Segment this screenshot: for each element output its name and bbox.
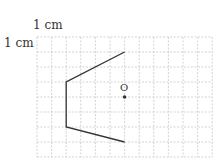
point-o-dot — [123, 95, 127, 99]
grid-diagram — [0, 0, 219, 167]
point-o-label: O — [120, 82, 128, 93]
